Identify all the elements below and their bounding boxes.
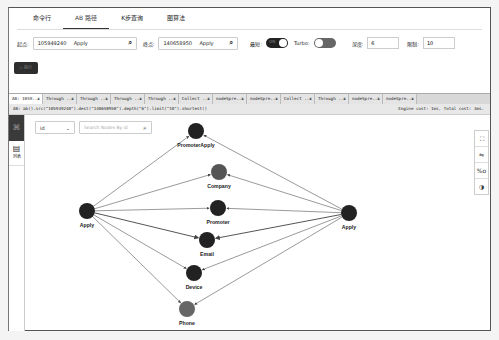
graph-node-phone[interactable]: Phone [179,301,195,326]
search-field-select[interactable]: id ⌄ [35,121,75,134]
node-label: PromoterApply [177,142,215,148]
graph-canvas[interactable]: ApplyApplyPromoterApplyCompanyPromoterEm… [9,8,492,332]
graph-edge[interactable] [228,175,342,211]
node-label: Apply [342,224,357,230]
node-label: Promoter [206,219,229,225]
graph-edge[interactable] [195,217,342,304]
graph-edge[interactable] [94,215,186,268]
fullscreen-icon[interactable]: ⛶ [475,131,488,147]
graph-toolbar: ⛶ ⇋ %o ◑ [474,130,489,195]
graph-edge[interactable] [93,136,188,206]
node-circle[interactable] [341,205,357,221]
app-window: 命令行 AB 路径 K步查询 图算法 起点: 10594​9240 Apply … [8,7,491,331]
link-icon[interactable]: ⇋ [475,147,488,163]
graph-edge[interactable] [93,217,181,303]
node-label: Apply [80,222,95,228]
node-circle[interactable] [210,200,226,216]
graph-node-email[interactable]: Email [199,232,215,257]
node-circle[interactable] [211,164,227,180]
node-label: Phone [179,320,195,326]
node-label: Company [207,183,231,189]
node-circle[interactable] [199,232,215,248]
graph-edge[interactable] [227,208,341,212]
graph-edge[interactable] [95,175,211,209]
zoom-ratio-icon[interactable]: %o [475,163,488,179]
search-nodes-input[interactable]: Search Nodes By id ⌕ [79,121,152,134]
graph-node-promoterapply[interactable]: PromoterApply [177,123,215,148]
node-circle[interactable] [79,203,95,219]
node-label: Email [200,251,214,257]
node-circle[interactable] [179,301,195,317]
theme-icon[interactable]: ◑ [475,179,488,194]
node-circle[interactable] [186,265,202,281]
graph-node-apply_dst[interactable]: Apply [341,205,357,230]
search-icon[interactable]: ⌕ [143,122,147,134]
node-label: Device [186,284,203,290]
graph-edge[interactable] [216,214,341,238]
graph-node-promoter[interactable]: Promoter [206,200,229,225]
chevron-down-icon: ⌄ [66,122,70,134]
node-circle[interactable] [188,123,204,139]
graph-node-device[interactable]: Device [186,265,203,290]
graph-node-apply_src[interactable]: Apply [79,203,95,228]
graph-node-company[interactable]: Company [207,164,231,189]
graph-edge[interactable] [95,208,209,211]
